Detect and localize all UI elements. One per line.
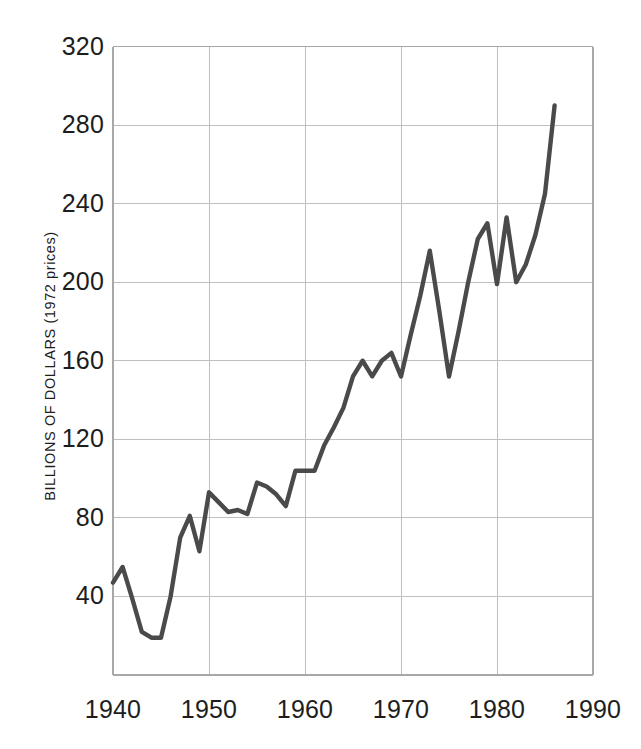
x-axis-tick-label: 1960 [260, 697, 350, 722]
x-axis-tick-label: 1980 [452, 697, 542, 722]
x-axis-tick-labels: 194019501960197019801990 [0, 0, 641, 749]
chart-figure: 4080120160200240280320 19401950196019701… [0, 0, 641, 749]
x-axis-tick-label: 1970 [356, 697, 446, 722]
x-axis-tick-label: 1990 [548, 697, 638, 722]
x-axis-tick-label: 1950 [164, 697, 254, 722]
y-axis-title: BILLIONS OF DOLLARS (1972 prices) [42, 156, 58, 576]
x-axis-tick-label: 1940 [68, 697, 158, 722]
